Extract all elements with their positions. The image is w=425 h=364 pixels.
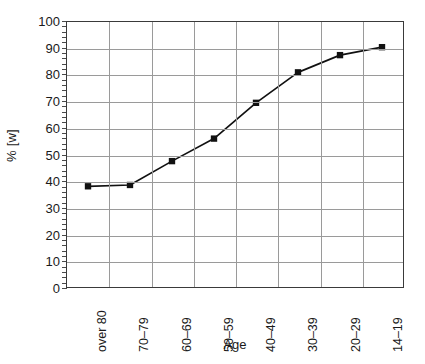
y-axis-tick-label: 20	[26, 228, 60, 241]
vertical-gridline	[236, 22, 237, 287]
y-axis-tick-label: 90	[26, 41, 60, 54]
y-axis-tick-label: 70	[26, 95, 60, 108]
horizontal-gridline	[67, 236, 403, 237]
plot-area	[66, 21, 404, 288]
series-polyline	[88, 47, 382, 186]
horizontal-gridline	[67, 129, 403, 130]
horizontal-gridline	[67, 75, 403, 76]
series-line	[67, 22, 403, 287]
y-axis-tick-label: 80	[26, 68, 60, 81]
horizontal-gridline	[67, 102, 403, 103]
y-axis-tick-label: 10	[26, 255, 60, 268]
horizontal-gridline	[67, 262, 403, 263]
vertical-gridline	[152, 22, 153, 287]
data-point-marker	[169, 158, 175, 164]
y-axis-tick-label: 40	[26, 175, 60, 188]
vertical-gridline	[194, 22, 195, 287]
x-axis-title: Age	[66, 337, 404, 352]
horizontal-gridline	[67, 182, 403, 183]
y-axis-tick-labels: 1009080706050403020100	[26, 21, 60, 288]
y-axis-title: % [w]	[4, 111, 19, 181]
vertical-gridline	[321, 22, 322, 287]
y-axis-tick-label: 50	[26, 148, 60, 161]
y-axis-tick-label: 60	[26, 121, 60, 134]
y-axis-tick-label: 100	[26, 15, 60, 28]
line-chart: % [w] 1009080706050403020100 over 8070–7…	[0, 0, 425, 364]
vertical-gridline	[278, 22, 279, 287]
horizontal-gridline	[67, 209, 403, 210]
data-point-marker	[85, 183, 91, 189]
horizontal-gridline	[67, 156, 403, 157]
data-point-marker	[337, 52, 343, 58]
y-axis-tick-label: 0	[26, 282, 60, 295]
data-point-marker	[211, 135, 217, 141]
vertical-gridline	[109, 22, 110, 287]
y-axis-tick-label: 30	[26, 201, 60, 214]
vertical-gridline	[363, 22, 364, 287]
horizontal-gridline	[67, 49, 403, 50]
